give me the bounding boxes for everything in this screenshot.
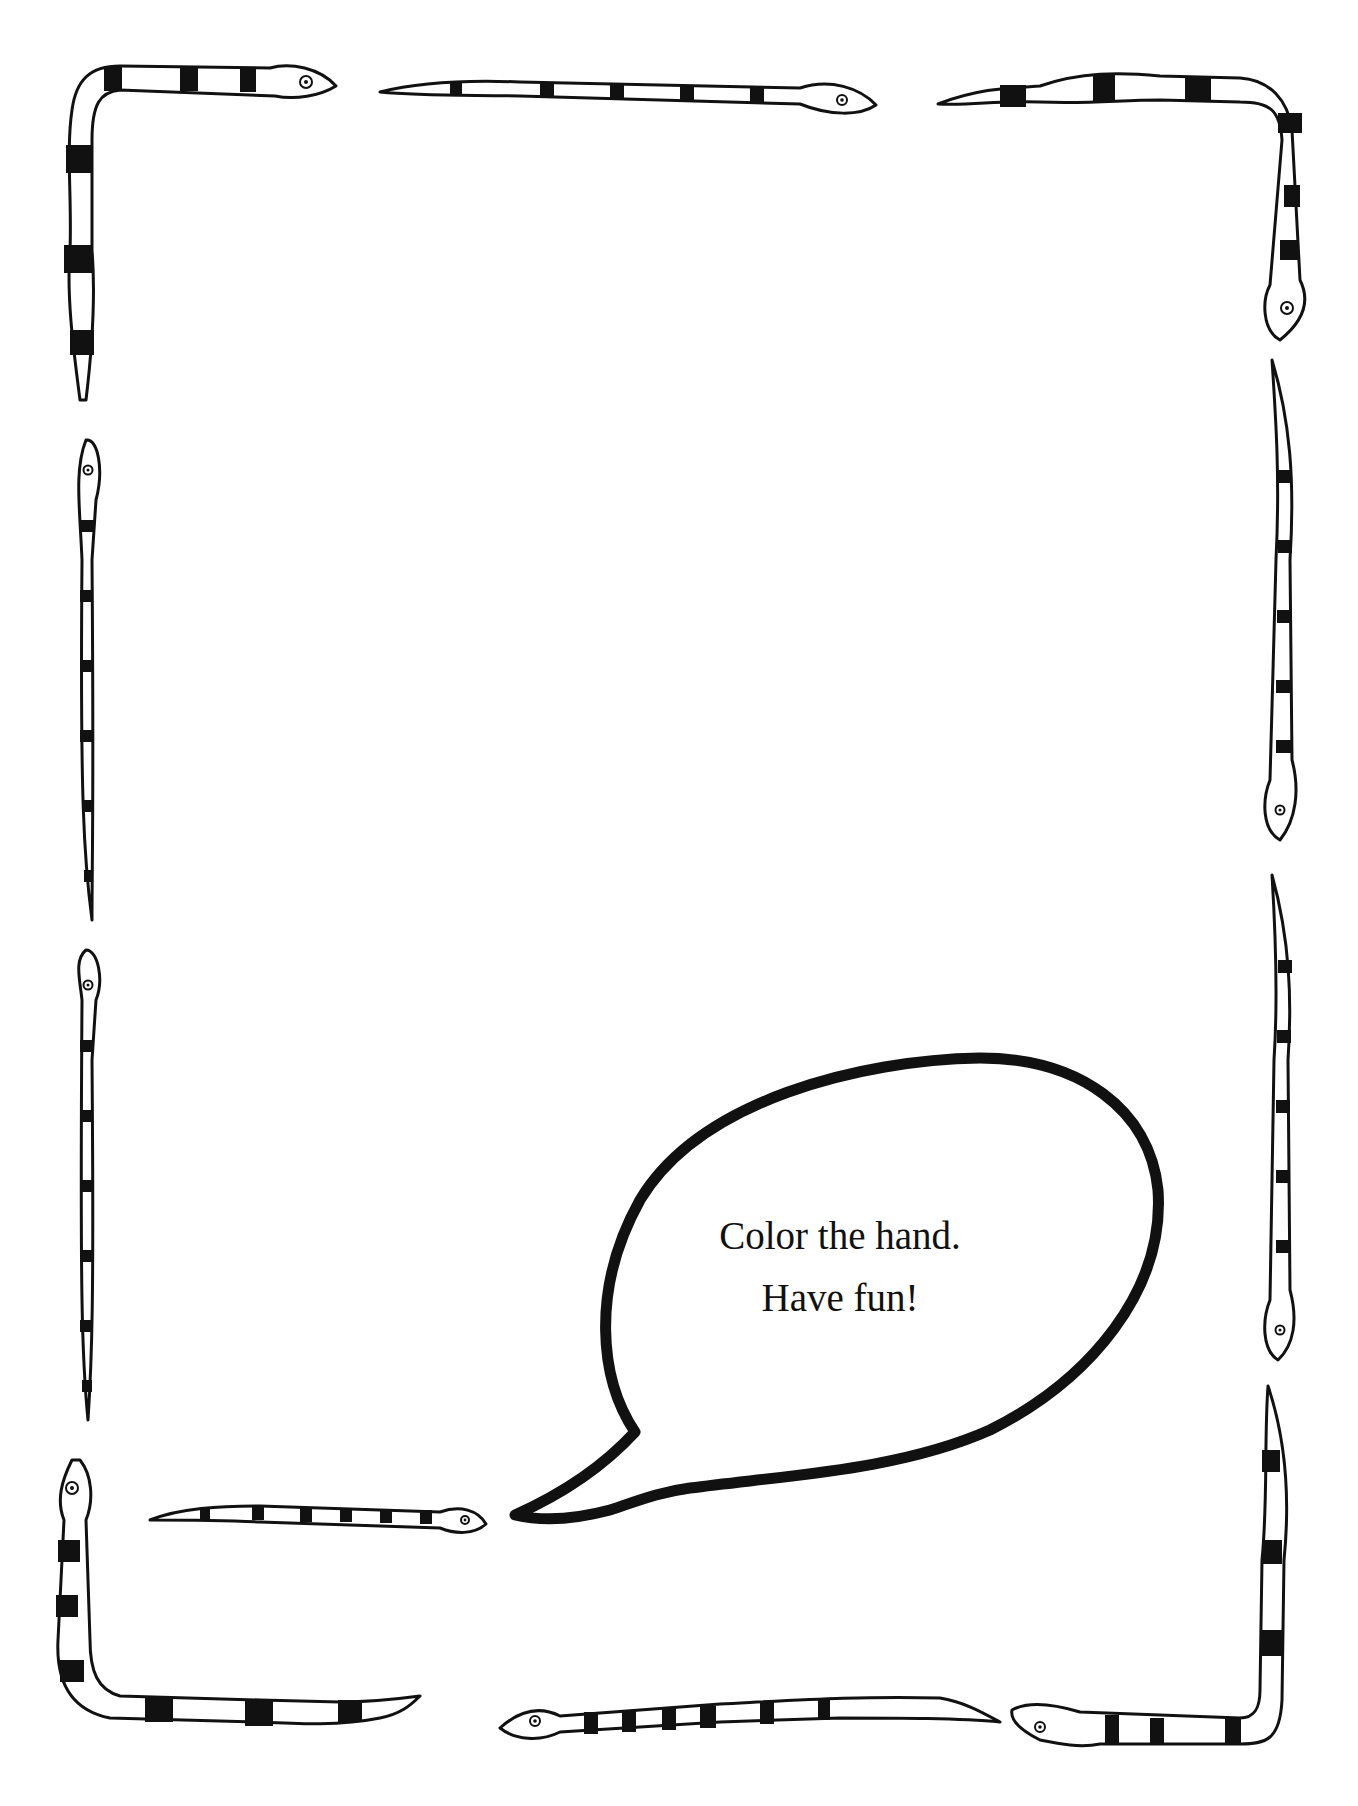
speech-bubble-text: Color the hand. Have fun! (690, 1205, 990, 1329)
snake-left-upper (79, 440, 100, 920)
snake-left-lower (79, 950, 100, 1420)
snake-top-right-corner (938, 74, 1305, 340)
snake-right-upper (1265, 360, 1296, 840)
speech-bubble-line-2: Have fun! (690, 1267, 990, 1329)
coloring-page-art: .body { fill: #fff; stroke: #111; stroke… (0, 0, 1358, 1806)
snake-bottom-right-corner (1012, 1386, 1287, 1746)
speech-bubble-line-1: Color the hand. (690, 1205, 990, 1267)
snake-bottom-left-horizontal (150, 1506, 486, 1532)
snake-right-middle (1265, 875, 1294, 1360)
snake-bottom-left-corner (56, 1460, 420, 1726)
snake-bottom-middle (500, 1697, 1000, 1738)
snake-top-left-corner (64, 66, 336, 400)
snake-top-middle (380, 81, 876, 113)
